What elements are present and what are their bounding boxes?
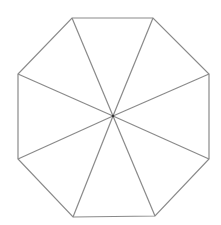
spoke-line-4 xyxy=(113,116,209,159)
spoke-line-8 xyxy=(18,74,113,116)
spoke-line-5 xyxy=(113,116,155,216)
octagon-spokes xyxy=(18,18,209,217)
spoke-line-1 xyxy=(72,18,113,116)
center-point xyxy=(112,115,114,117)
octagon-diagram xyxy=(0,0,221,225)
octagon-figure xyxy=(0,0,221,225)
